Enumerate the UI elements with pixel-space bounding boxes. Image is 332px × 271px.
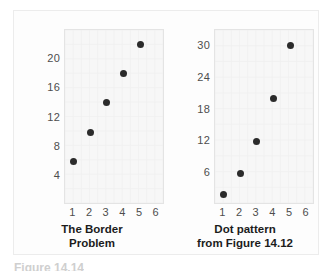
grid-right bbox=[215, 30, 313, 203]
y-tick-label-left: 20 bbox=[47, 52, 60, 64]
data-point bbox=[70, 158, 77, 165]
x-tick-label-right: 2 bbox=[236, 206, 242, 218]
y-tick-label-right: 30 bbox=[197, 39, 210, 51]
plot-panel-right bbox=[214, 29, 314, 204]
grid-left bbox=[65, 30, 163, 203]
x-tick-label-left: 6 bbox=[153, 206, 159, 218]
figure-number-label: Figure 14.14 bbox=[14, 261, 84, 271]
x-tick-label-left: 1 bbox=[69, 206, 75, 218]
chart-dot-pattern: 612182430 123456 Dot patternfrom Figure … bbox=[170, 11, 320, 254]
data-point bbox=[237, 170, 244, 177]
caption-line: from Figure 14.12 bbox=[170, 236, 320, 250]
y-tick-label-right: 18 bbox=[197, 103, 210, 115]
data-point bbox=[220, 191, 227, 198]
data-point bbox=[253, 138, 260, 145]
y-tick-label-right: 12 bbox=[197, 134, 210, 146]
y-axis-right: 612182430 bbox=[180, 29, 210, 204]
x-tick-label-left: 4 bbox=[119, 206, 125, 218]
chart-the-border-problem: 48121620 123456 The BorderProblem bbox=[16, 11, 168, 254]
x-tick-label-left: 3 bbox=[103, 206, 109, 218]
y-tick-label-left: 16 bbox=[47, 81, 60, 93]
charts-row: 48121620 123456 The BorderProblem 612182… bbox=[14, 11, 318, 254]
y-tick-label-right: 6 bbox=[204, 166, 210, 178]
plot-panel-left bbox=[64, 29, 164, 204]
x-tick-label-right: 3 bbox=[253, 206, 259, 218]
y-tick-label-left: 12 bbox=[47, 111, 60, 123]
x-tick-label-right: 1 bbox=[219, 206, 225, 218]
caption-line: Dot pattern bbox=[170, 222, 320, 236]
y-axis-left: 48121620 bbox=[30, 29, 60, 204]
x-tick-label-right: 4 bbox=[269, 206, 275, 218]
y-tick-label-right: 24 bbox=[197, 71, 210, 83]
x-tick-label-right: 6 bbox=[303, 206, 309, 218]
data-point bbox=[87, 129, 94, 136]
x-axis-right: 123456 bbox=[214, 206, 314, 220]
x-tick-label-left: 2 bbox=[86, 206, 92, 218]
chart-caption-left: The BorderProblem bbox=[16, 222, 168, 250]
caption-line: The Border bbox=[16, 222, 168, 236]
chart-caption-right: Dot patternfrom Figure 14.12 bbox=[170, 222, 320, 250]
x-tick-label-right: 5 bbox=[286, 206, 292, 218]
data-point bbox=[287, 42, 294, 49]
y-tick-label-left: 4 bbox=[54, 169, 60, 181]
caption-line: Problem bbox=[16, 236, 168, 250]
x-tick-label-left: 5 bbox=[136, 206, 142, 218]
x-axis-left: 123456 bbox=[64, 206, 164, 220]
y-tick-label-left: 8 bbox=[54, 140, 60, 152]
figure-frame: 48121620 123456 The BorderProblem 612182… bbox=[13, 10, 319, 255]
data-point bbox=[137, 41, 144, 48]
